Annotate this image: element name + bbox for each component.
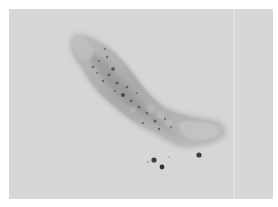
organism-body [69,32,228,149]
image-frame [0,0,278,207]
micrograph-field [9,9,273,199]
organism-illustration [9,9,273,199]
debris-particles [147,152,201,169]
